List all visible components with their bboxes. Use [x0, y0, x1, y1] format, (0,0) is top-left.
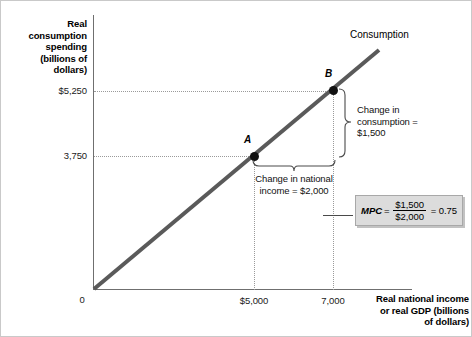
- x-tick-label-right: 7,000: [306, 295, 360, 306]
- mpc-result: = 0.75: [431, 205, 457, 216]
- brace-national-income: [251, 158, 337, 172]
- mpc-symbol: MPC: [361, 205, 382, 216]
- brace-consumption-change: [337, 87, 353, 161]
- annotation-change-in-national-income: Change in national income = $2,000: [250, 173, 338, 196]
- data-point-a-label: A: [244, 134, 251, 145]
- mpc-formula-box: MPC = $1,500 $2,000 = 0.75: [355, 195, 463, 226]
- mpc-formula: MPC = $1,500 $2,000 = 0.75: [361, 199, 457, 222]
- x-axis-title: Real national income or real GDP (billio…: [373, 293, 469, 328]
- gridline-horizontal-lower: [94, 156, 255, 157]
- mpc-connector-line: [323, 215, 353, 216]
- mpc-equals-sign: =: [384, 205, 389, 216]
- mpc-denominator: $2,000: [393, 210, 425, 222]
- y-axis: [93, 15, 94, 290]
- mpc-numerator: $1,500: [393, 199, 425, 210]
- gridline-horizontal-upper: [94, 91, 334, 92]
- data-point-b-label: B: [325, 68, 332, 79]
- y-tick-label-upper: $5,250: [39, 85, 87, 96]
- annotation-change-in-consumption: Change in consumption = $1,500: [357, 104, 441, 139]
- consumption-series-label: Consumption: [350, 29, 409, 40]
- mpc-fraction: $1,500 $2,000: [393, 199, 425, 222]
- origin-label: 0: [75, 294, 89, 305]
- y-axis-title: Real consumption spending (billions of d…: [9, 18, 87, 76]
- x-axis: [93, 289, 412, 290]
- consumption-function-chart: Real consumption spending (billions of d…: [0, 0, 472, 337]
- x-tick-label-left: $5,000: [225, 295, 283, 306]
- y-tick-label-lower: 3,750: [39, 150, 87, 161]
